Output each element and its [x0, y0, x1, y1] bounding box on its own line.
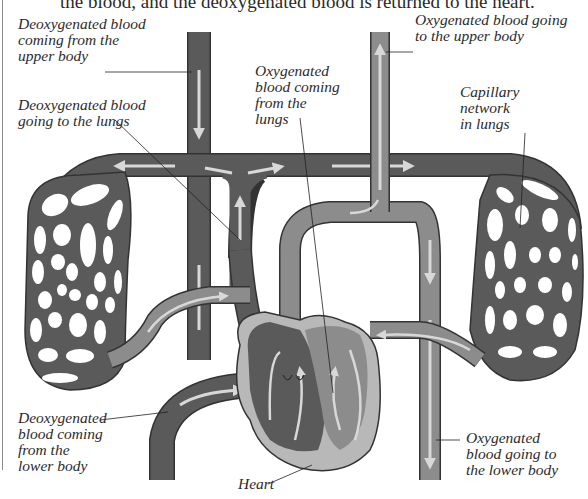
heart — [237, 312, 381, 471]
label-heart: Heart — [238, 476, 274, 492]
label-oxygenated-to-lower-body: Oxygenated blood going to the lower body — [466, 430, 558, 478]
right-lung-capillaries — [470, 175, 583, 381]
label-deoxygenated-to-lungs: Deoxygenated blood going to the lungs — [18, 97, 146, 129]
inferior-vena-cava — [162, 385, 250, 480]
label-deoxygenated-from-lower-body: Deoxygenated blood coming from the lower… — [18, 410, 107, 474]
label-deoxygenated-from-upper-body: Deoxygenated blood coming from the upper… — [18, 16, 146, 64]
label-capillary-network: Capillary network in lungs — [460, 84, 519, 132]
label-oxygenated-to-upper-body: Oxygenated blood going to the upper body — [415, 12, 567, 44]
left-pulmonary-vein — [110, 295, 250, 360]
label-oxygenated-from-lungs: Oxygenated blood coming from the lungs — [255, 63, 340, 127]
